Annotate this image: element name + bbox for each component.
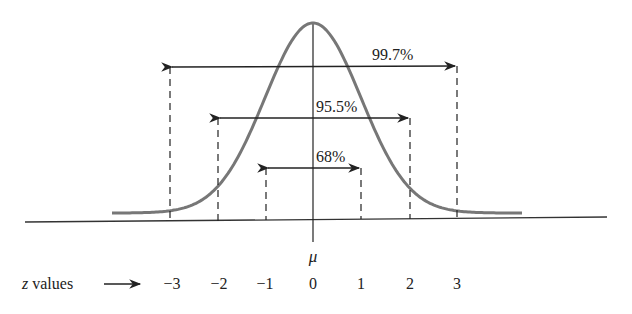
label-68: 68% bbox=[316, 148, 345, 165]
tick-label: −1 bbox=[256, 275, 273, 292]
tick-label: 3 bbox=[453, 275, 461, 292]
arrow-99-7 bbox=[172, 66, 455, 67]
tick-label: 0 bbox=[309, 275, 317, 292]
z-tick-labels: −3 −2 −1 0 1 2 3 bbox=[163, 275, 461, 292]
normal-distribution-diagram: 99.7% 95.5% 68% μ z values −3 −2 −1 0 1 … bbox=[0, 0, 632, 314]
tick-label: −2 bbox=[210, 275, 227, 292]
z-values-label: z values bbox=[21, 275, 73, 292]
tick-label: −3 bbox=[163, 275, 180, 292]
tick-label: 2 bbox=[406, 275, 414, 292]
label-99-7: 99.7% bbox=[372, 46, 413, 63]
mean-symbol: μ bbox=[308, 247, 318, 266]
tick-label: 1 bbox=[357, 275, 365, 292]
x-axis-baseline bbox=[25, 217, 607, 222]
label-95-5: 95.5% bbox=[316, 98, 357, 115]
